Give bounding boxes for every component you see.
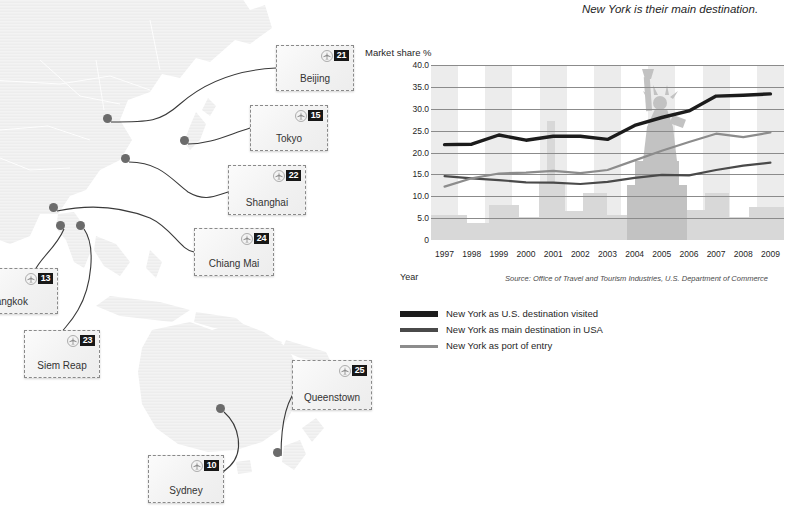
y-axis-tick-label: 30.0: [405, 104, 429, 114]
stamp-city-label: Sydney: [149, 485, 223, 496]
legend-color-swatch: [400, 328, 438, 332]
legend-color-swatch: [400, 345, 438, 348]
stamp-city-label: Bangkok: [0, 296, 57, 307]
chart-panel: New York is their main destination. Mark…: [400, 0, 790, 514]
airplane-icon: [25, 273, 37, 285]
airplane-icon: [241, 233, 253, 245]
stamp-city-label: Queenstown: [293, 392, 371, 403]
source-note: Source: Office of Travel and Tourism Ind…: [505, 274, 768, 283]
dot-shanghai: [121, 154, 130, 163]
airplane-icon: [295, 110, 307, 122]
stamp-tokyo[interactable]: 15Tokyo: [250, 105, 328, 151]
airplane-icon: [191, 460, 203, 472]
legend-item[interactable]: New York as port of entry: [400, 338, 740, 354]
stamp-number-badge: 25: [352, 365, 367, 376]
map-panel: 21Beijing 15Tokyo 22Shanghai 24Chiang Ma…: [0, 0, 400, 514]
dot-chiangmai: [49, 203, 58, 212]
stamp-shanghai[interactable]: 22Shanghai: [228, 165, 306, 215]
stamp-city-label: Beijing: [277, 73, 353, 84]
stamp-number-badge: 21: [334, 50, 349, 61]
stamp-city-label: Tokyo: [251, 133, 327, 144]
stamp-city-label: Chiang Mai: [195, 258, 273, 269]
dot-sydney: [216, 404, 225, 413]
chart-plot-area: [431, 65, 784, 240]
legend-item[interactable]: New York as U.S. destination visited: [400, 306, 740, 322]
legend-item[interactable]: New York as main destination in USA: [400, 322, 740, 338]
stamp-beijing[interactable]: 21Beijing: [276, 45, 354, 91]
dot-tokyo: [180, 136, 189, 145]
stamp-chiang-mai[interactable]: 24Chiang Mai: [194, 228, 274, 276]
y-axis-tick-label: 40.0: [405, 60, 429, 70]
x-axis-tick-label: 2009: [754, 249, 786, 259]
y-axis-tick-label: 10.0: [405, 191, 429, 201]
stamp-queenstown[interactable]: 25Queenstown: [292, 360, 372, 410]
legend-label: New York as U.S. destination visited: [446, 306, 598, 321]
airplane-icon: [273, 170, 285, 182]
stamp-city-label: Shanghai: [229, 197, 305, 208]
y-axis-title: Market share %: [365, 47, 432, 58]
stamp-number-badge: 24: [254, 233, 269, 244]
dot-siemreap: [76, 221, 85, 230]
y-axis-tick-label: 0: [405, 235, 429, 245]
stamp-siem-reap[interactable]: 23Siem Reap: [24, 330, 100, 378]
y-axis-tick-label: 5.0: [405, 213, 429, 223]
stamp-number-badge: 15: [308, 110, 323, 121]
legend-label: New York as port of entry: [446, 338, 552, 353]
chart-legend: New York as U.S. destination visitedNew …: [400, 306, 740, 354]
airplane-icon: [321, 50, 333, 62]
stamp-number-badge: 13: [38, 273, 53, 284]
dot-bangkok: [56, 221, 65, 230]
chart-series-line-0: [445, 94, 771, 145]
x-axis-title: Year: [400, 272, 418, 282]
y-axis-tick-label: 15.0: [405, 169, 429, 179]
line-chart: 05.010.015.020.025.030.035.040.0 1997199…: [405, 65, 790, 250]
airplane-icon: [67, 335, 79, 347]
stamp-number-badge: 23: [80, 335, 95, 346]
chart-series-line-1: [445, 163, 771, 184]
dot-beijing: [103, 114, 112, 123]
y-axis-tick-label: 20.0: [405, 148, 429, 158]
headline-text: New York is their main destination.: [550, 3, 790, 15]
airplane-icon: [339, 365, 351, 377]
chart-series-lines: [431, 65, 784, 240]
y-axis-tick-label: 25.0: [405, 126, 429, 136]
y-axis-tick-label: 35.0: [405, 82, 429, 92]
legend-label: New York as main destination in USA: [446, 322, 603, 337]
stamp-sydney[interactable]: 10Sydney: [148, 455, 224, 503]
stamp-bangkok[interactable]: 13Bangkok: [0, 268, 58, 314]
stamp-number-badge: 10: [204, 460, 219, 471]
legend-color-swatch: [400, 311, 438, 317]
stamp-number-badge: 22: [286, 170, 301, 181]
stamp-city-label: Siem Reap: [25, 360, 99, 371]
dot-queenstown: [273, 448, 282, 457]
